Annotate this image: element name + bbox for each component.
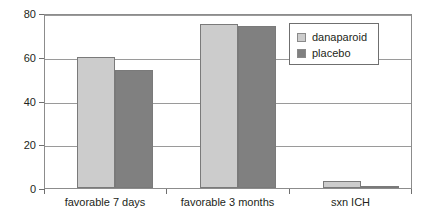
bar-danaparoid-favorable-7-days xyxy=(77,57,115,188)
y-axis-tick-mark xyxy=(39,58,44,59)
bar-placebo-sxn-ich xyxy=(361,186,399,188)
y-axis-label-0: 0 xyxy=(6,184,36,195)
y-axis-label-40: 40 xyxy=(6,96,36,107)
y-axis-label-20: 20 xyxy=(6,140,36,151)
legend-swatch-icon xyxy=(297,33,306,42)
y-axis-label-80: 80 xyxy=(6,9,36,20)
y-axis-tick-mark xyxy=(39,14,44,15)
x-axis-tick-mark xyxy=(289,189,290,194)
legend-label-placebo: placebo xyxy=(312,48,351,59)
legend-item-placebo: placebo xyxy=(297,45,378,61)
x-axis-tick-mark xyxy=(411,189,412,194)
x-axis-tick-mark xyxy=(44,189,45,194)
y-axis-tick-mark xyxy=(39,145,44,146)
legend-label-danaparoid: danaparoid xyxy=(312,32,367,43)
y-axis-tick-mark xyxy=(39,102,44,103)
gridline xyxy=(45,15,411,16)
x-axis-tick-mark xyxy=(166,189,167,194)
x-axis-label-favorable-3-months: favorable 3 months xyxy=(166,196,289,208)
x-axis-label-sxn-ich: sxn ICH xyxy=(289,196,412,208)
legend-swatch-icon xyxy=(297,49,306,58)
bar-chart: danaparoid placebo 80 60 40 20 0 favorab… xyxy=(0,0,428,223)
legend-item-danaparoid: danaparoid xyxy=(297,29,378,45)
plot-area: danaparoid placebo xyxy=(44,14,412,189)
bar-placebo-favorable-7-days xyxy=(115,70,153,188)
legend: danaparoid placebo xyxy=(289,23,379,65)
bar-placebo-favorable-3-months xyxy=(238,26,276,188)
bar-danaparoid-favorable-3-months xyxy=(200,24,238,188)
y-axis-label-60: 60 xyxy=(6,52,36,63)
bar-danaparoid-sxn-ich xyxy=(323,181,361,188)
x-axis-label-favorable-7-days: favorable 7 days xyxy=(44,196,166,208)
